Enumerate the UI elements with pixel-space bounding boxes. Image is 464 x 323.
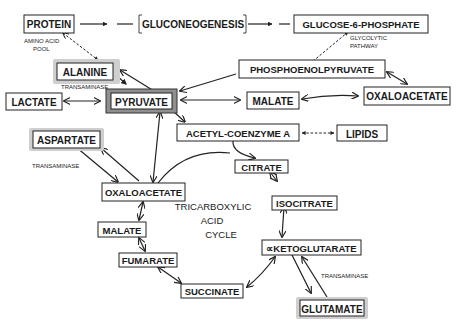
cycle-label: TRICARBOXYLIC ACID CYCLE	[175, 201, 252, 240]
note-glycolytic: GLYCOLYTIC	[350, 35, 388, 41]
node-citrate: CITRATE	[235, 160, 288, 173]
svg-text:ACETYL-COENZYME A: ACETYL-COENZYME A	[186, 128, 290, 139]
svg-text:CYCLE: CYCLE	[205, 229, 237, 240]
arrow-acetylcoa-citrate	[233, 141, 255, 158]
svg-text:LIPIDS: LIPIDS	[346, 129, 379, 140]
node-alanine[interactable]: ALANINE	[53, 59, 120, 84]
node-lipids: LIPIDS	[337, 125, 387, 141]
arrow-oxaloacetate-malate	[139, 202, 143, 220]
svg-text:∝KETOGLUTARATE: ∝KETOGLUTARATE	[266, 243, 356, 254]
arrow-malate-fumarate	[139, 238, 145, 251]
svg-text:FUMARATE: FUMARATE	[122, 255, 175, 266]
node-malate-cycle: MALATE	[98, 222, 146, 237]
arrow-pyruvate-alanine	[120, 70, 154, 91]
svg-text:ASPARTATE: ASPARTATE	[37, 135, 96, 146]
svg-text:LACTATE: LACTATE	[11, 97, 57, 108]
node-aspartate[interactable]: ASPARTATE	[29, 128, 104, 151]
arrow-aspartate-oxaloacetate	[76, 147, 118, 182]
node-malate-top: MALATE	[247, 92, 299, 109]
node-lactate: LACTATE	[6, 93, 62, 110]
svg-text:OXALOACETATE: OXALOACETATE	[366, 91, 448, 102]
svg-text:MALATE: MALATE	[103, 225, 142, 236]
node-fumarate: FUMARATE	[119, 253, 177, 267]
node-glucose-6-phosphate: GLUCOSE-6-PHOSPHATE	[294, 15, 428, 33]
svg-text:ISOCITRATE: ISOCITRATE	[276, 198, 333, 209]
svg-text:PROTEIN: PROTEIN	[27, 19, 71, 30]
node-protein: PROTEIN	[24, 15, 74, 33]
svg-text:GLUCOSE-6-PHOSPHATE: GLUCOSE-6-PHOSPHATE	[302, 19, 419, 30]
svg-text:PYRUVATE: PYRUVATE	[115, 97, 168, 108]
arrow-fumarate-succinate	[158, 267, 181, 283]
node-pyruvate[interactable]: PYRUVATE	[106, 89, 177, 113]
svg-text:OXALOACETATE: OXALOACETATE	[105, 187, 182, 198]
svg-text:TRICARBOXYLIC: TRICARBOXYLIC	[175, 201, 252, 212]
note-transaminase-glutamate: TRANSAMINASE	[321, 273, 368, 279]
svg-text:GLUTAMATE: GLUTAMATE	[301, 304, 363, 315]
node-isocitrate: ISOCITRATE	[272, 196, 337, 210]
arrow-pyruvate-oxaloacetate	[153, 112, 160, 182]
svg-text:PHOSPHOENOLPYRUVATE: PHOSPHOENOLPYRUVATE	[250, 64, 374, 75]
node-alpha-ketoglutarate: ∝KETOGLUTARATE	[262, 240, 361, 255]
arrow-oxaloacetate-aspartate	[101, 148, 139, 181]
metabolic-pathway-diagram: PROTEIN GLUCONEOGENESIS GLUCOSE-6-PHOSPH…	[0, 0, 464, 323]
node-acetyl-coenzyme-a: ACETYL-COENZYME A	[177, 124, 299, 141]
node-oxaloacetate-top: OXALOACETATE	[364, 87, 450, 105]
arrow-succinate-akg	[247, 257, 275, 287]
svg-text:CITRATE: CITRATE	[241, 162, 281, 173]
note-transaminase-aspartate: TRANSAMINASE	[32, 163, 79, 169]
arrow-malate-oxaloacetate	[302, 95, 358, 99]
note-transaminase-alanine: TRANSAMINASE	[61, 84, 108, 90]
note-pool: POOL	[33, 46, 50, 52]
node-oxaloacetate-cycle: OXALOACETATE	[102, 183, 185, 201]
node-phosphoenolpyruvate: PHOSPHOENOLPYRUVATE	[239, 60, 385, 78]
svg-text:ACID: ACID	[201, 215, 224, 226]
svg-text:ALANINE: ALANINE	[63, 67, 108, 78]
arc-oxaloacetate-citrate	[158, 152, 230, 183]
arrow-isocitrate-akg	[282, 207, 284, 237]
svg-text:MALATE: MALATE	[253, 96, 294, 107]
svg-text:GLUCONEOGENESIS: GLUCONEOGENESIS	[142, 19, 245, 30]
arrow-pyruvate-pep	[180, 74, 236, 91]
node-glutamate[interactable]: GLUTAMATE	[296, 297, 368, 319]
node-succinate: SUCCINATE	[181, 284, 243, 298]
note-amino-acid: AMINO ACID	[24, 38, 60, 44]
arrow-akg-glutamate	[292, 255, 311, 293]
arrow-pep-oxaloacetate	[387, 72, 407, 84]
svg-text:SUCCINATE: SUCCINATE	[185, 286, 240, 297]
arrow-protein-alanine	[63, 33, 98, 60]
node-gluconeogenesis: GLUCONEOGENESIS	[142, 19, 245, 30]
note-pathway: PATHWAY	[350, 43, 378, 49]
arrow-g6p-pep	[312, 32, 348, 62]
